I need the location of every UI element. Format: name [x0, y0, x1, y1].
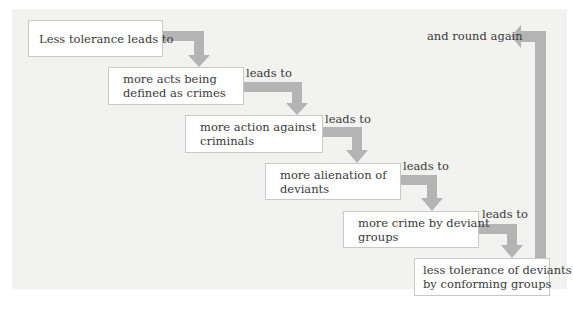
step-text: criminals	[200, 134, 312, 148]
connector-label-1: leads to	[246, 67, 292, 80]
step-text: by conforming groups	[423, 277, 539, 291]
step-text: more crime by deviant	[358, 216, 468, 230]
step-text: deviants	[280, 182, 390, 196]
return-label: and round again	[427, 30, 523, 43]
step-box-5: more crime by deviant groups	[343, 211, 479, 248]
step-box-2: more acts being defined as crimes	[108, 67, 244, 105]
step-text: more action against	[200, 120, 312, 134]
step-text: more acts being	[123, 72, 233, 86]
arrow-icon-step2	[243, 82, 308, 115]
return-arrow-icon	[511, 25, 546, 258]
step-box-3: more action against criminals	[185, 115, 323, 153]
step-text: defined as crimes	[123, 86, 233, 100]
step-text: Less tolerance leads to	[39, 32, 152, 46]
connector-label-3: leads to	[403, 160, 449, 173]
connector-label-2: leads to	[325, 113, 371, 126]
connector-label-4: leads to	[482, 208, 528, 221]
arrow-icon-step3	[322, 127, 368, 163]
step-text: more alienation of	[280, 168, 390, 182]
arrow-icon-step4	[400, 175, 443, 211]
step-box-1: Less tolerance leads to	[28, 20, 163, 57]
step-box-4: more alienation of deviants	[265, 163, 401, 200]
step-box-6: less tolerance of deviants by conforming…	[414, 258, 550, 296]
step-text: groups	[358, 230, 468, 244]
step-text: less tolerance of deviants	[423, 263, 539, 277]
